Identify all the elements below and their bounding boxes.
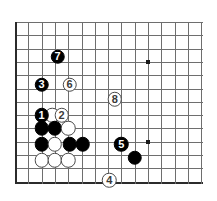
- numbered-stone-3[interactable]: 3: [34, 77, 49, 92]
- grid-line-vertical: [148, 22, 149, 184]
- numbered-stone-7[interactable]: 7: [50, 49, 65, 64]
- stone-white[interactable]: [61, 153, 76, 168]
- stone-black[interactable]: [127, 150, 142, 165]
- stone-white[interactable]: [48, 137, 63, 152]
- stone-move-number: 5: [118, 139, 124, 150]
- stone-move-number: 4: [106, 175, 112, 186]
- grid-line-vertical: [175, 22, 176, 184]
- grid-line-vertical: [15, 22, 17, 184]
- numbered-stone-5[interactable]: 5: [114, 137, 129, 152]
- stone-move-number: 6: [66, 79, 72, 90]
- stone-move-number: 7: [54, 51, 60, 62]
- grid-line-vertical: [82, 22, 83, 184]
- numbered-stone-8[interactable]: 8: [108, 92, 123, 107]
- numbered-stone-2[interactable]: 2: [54, 108, 69, 123]
- go-board[interactable]: 12345678: [0, 0, 217, 201]
- grid-line-vertical: [188, 22, 189, 184]
- stone-move-number: 2: [58, 110, 64, 121]
- numbered-stone-6[interactable]: 6: [62, 77, 77, 92]
- stone-black[interactable]: [76, 137, 91, 152]
- stone-move-number: 1: [39, 110, 45, 121]
- numbered-stone-4[interactable]: 4: [102, 173, 117, 188]
- hoshi-point: [146, 140, 150, 144]
- grid-line-vertical: [201, 22, 202, 184]
- grid-line-vertical: [95, 22, 96, 184]
- stone-white[interactable]: [61, 121, 76, 136]
- stone-black[interactable]: [62, 137, 77, 152]
- stone-move-number: 8: [112, 94, 118, 105]
- hoshi-point: [146, 60, 150, 64]
- numbered-stone-1[interactable]: 1: [34, 108, 49, 123]
- grid-line-vertical: [28, 22, 29, 184]
- stone-move-number: 3: [39, 79, 45, 90]
- grid-line-vertical: [161, 22, 162, 184]
